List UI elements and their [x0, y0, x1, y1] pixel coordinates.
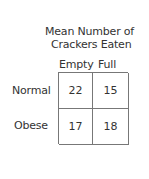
data-table-grid: 22 15 17 18 — [58, 72, 128, 144]
cell-obese-empty: 17 — [59, 109, 93, 145]
cell-normal-full: 15 — [93, 73, 129, 109]
table-title-line-2: Crackers Eaten — [51, 38, 149, 51]
cell-obese-full: 18 — [93, 109, 129, 145]
row-label-normal: Normal — [12, 84, 51, 97]
column-header-empty: Empty — [59, 58, 93, 71]
row-label-obese: Obese — [14, 119, 48, 132]
cell-normal-empty: 22 — [59, 73, 93, 109]
table-title-line-1: Mean Number of — [45, 25, 149, 38]
column-header-full: Full — [98, 58, 116, 71]
